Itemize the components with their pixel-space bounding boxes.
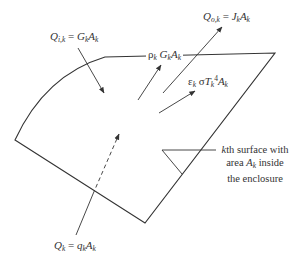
incident-a-sub: k xyxy=(95,35,98,44)
net-a: A xyxy=(86,239,93,251)
annotation-line-2-pre: area xyxy=(226,157,246,168)
annotation-line-2: area Ak inside xyxy=(215,156,295,172)
annotation-line-3: the enclosure xyxy=(215,172,295,185)
incident-arrow xyxy=(78,48,104,93)
annotation-line-2-post: inside xyxy=(256,157,284,168)
net-flux-label: Qk = qkAk xyxy=(54,240,96,253)
reflected-arrow xyxy=(138,65,161,100)
reflected-a-sub: k xyxy=(178,53,181,62)
reflected-label: ρk GkAk xyxy=(146,49,183,62)
surface-annotation: kth surface with area Ak inside the encl… xyxy=(215,143,295,185)
net-flux-arrow-dashed xyxy=(93,134,119,194)
incident-label: Qi,k = GkAk xyxy=(50,31,98,44)
outgoing-q-sub: o,k xyxy=(211,15,220,24)
emitted-a-sub: k xyxy=(225,80,228,89)
reflected-a: A xyxy=(171,48,178,60)
incident-g: G xyxy=(77,30,85,42)
net-eq: = xyxy=(65,239,77,251)
annotation-line-1: kth surface with xyxy=(215,143,295,156)
diagram-canvas xyxy=(0,0,302,259)
outgoing-label: Qo,k = JkAk xyxy=(203,11,250,24)
net-q: Q xyxy=(54,239,62,251)
outgoing-eq: = xyxy=(220,10,232,22)
emitted-a: A xyxy=(218,75,225,87)
annotation-line-1-text: th surface with xyxy=(226,144,288,155)
emitted-sigma: σ xyxy=(196,75,205,87)
incident-a: A xyxy=(88,30,95,42)
incident-eq: = xyxy=(65,30,77,42)
incident-q: Q xyxy=(50,30,58,42)
emitted-arrow xyxy=(159,91,195,113)
emitted-label: εk σTk4Ak xyxy=(188,75,228,89)
net-a-sub: k xyxy=(93,244,96,253)
outgoing-a-sub: k xyxy=(247,15,250,24)
net-flux-arrow-solid xyxy=(76,194,93,235)
reflected-g: G xyxy=(157,48,168,60)
outgoing-a: A xyxy=(240,10,247,22)
outgoing-q: Q xyxy=(203,10,211,22)
annotation-leader xyxy=(162,150,216,174)
surface-outline xyxy=(15,53,275,223)
